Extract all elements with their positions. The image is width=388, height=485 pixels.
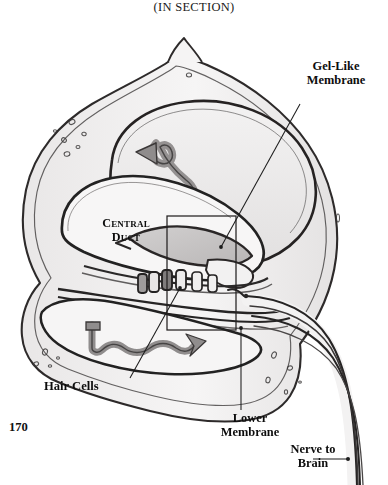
label-gel-like-membrane: Gel-Like Membrane — [286, 60, 386, 88]
label-central-duct: Central Duct — [78, 217, 174, 244]
label-nerve-to-brain: Nerve to Brain — [277, 443, 349, 471]
figure-canvas: (IN SECTION) — [0, 0, 388, 485]
page-number: 170 — [9, 420, 28, 435]
label-lower-membrane: Lower Membrane — [204, 412, 296, 440]
label-hair-cells: Hair Cells — [44, 379, 136, 393]
